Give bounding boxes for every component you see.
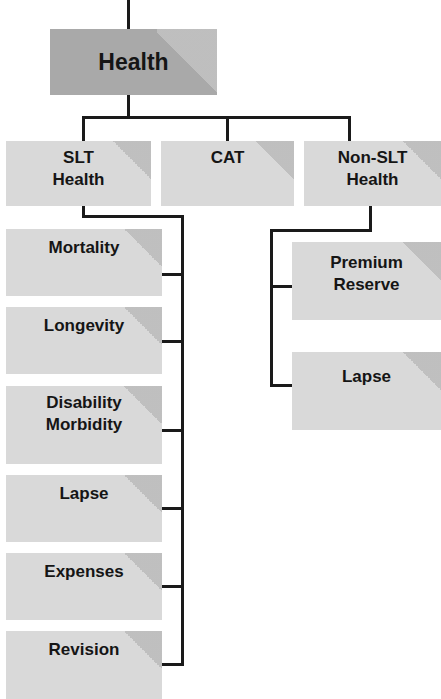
node-label-line: Revision [49, 639, 120, 661]
node-lapse-non-slt: Lapse [292, 352, 441, 430]
node-label-line: Longevity [44, 315, 124, 337]
non-slt-drop-line [348, 116, 351, 142]
slt-elbow-line [82, 215, 184, 218]
node-mortality: Mortality [6, 229, 162, 296]
node-label: Health [98, 51, 168, 73]
non-slt-tick-premium [270, 285, 293, 288]
node-label-line: Reserve [333, 274, 399, 296]
root-incoming-line [127, 0, 130, 29]
node-revision: Revision [6, 631, 162, 699]
node-lapse-slt: Lapse [6, 475, 162, 542]
node-label-line: Health [53, 169, 105, 191]
non-slt-spine-line [270, 229, 273, 387]
node-label-line: Expenses [44, 561, 123, 583]
node-label-line: Premium [330, 252, 403, 274]
non-slt-stem-line [369, 205, 372, 232]
node-expenses: Expenses [6, 553, 162, 620]
slt-tick-longevity [161, 340, 183, 343]
slt-tick-lapse [161, 507, 183, 510]
slt-tick-revision [161, 663, 183, 666]
node-disability-morbidity: Disability Morbidity [6, 386, 162, 464]
slt-drop-line [82, 116, 85, 142]
level2-bus-line [82, 116, 351, 119]
node-label-line: Mortality [49, 237, 120, 259]
node-label-line: CAT [211, 147, 245, 169]
slt-tick-mortality [161, 273, 183, 276]
node-label-line: SLT [63, 147, 94, 169]
node-premium-reserve: Premium Reserve [292, 242, 441, 320]
node-label-line: Lapse [342, 366, 391, 388]
node-longevity: Longevity [6, 307, 162, 374]
node-label-line: Non-SLT [338, 147, 408, 169]
node-label-line: Morbidity [46, 414, 123, 436]
node-label-line: Disability [46, 392, 122, 414]
non-slt-elbow-line [270, 229, 372, 232]
slt-tick-expenses [161, 585, 183, 588]
slt-spine-line [181, 215, 184, 666]
non-slt-tick-lapse [270, 384, 293, 387]
cat-drop-line [226, 116, 229, 142]
node-health-root: Health [50, 29, 217, 95]
node-label-line: Lapse [59, 483, 108, 505]
slt-tick-disability [161, 429, 183, 432]
node-label-line: Health [347, 169, 399, 191]
node-cat: CAT [161, 141, 294, 206]
node-non-slt-health: Non-SLT Health [304, 141, 441, 206]
node-slt-health: SLT Health [6, 141, 151, 206]
